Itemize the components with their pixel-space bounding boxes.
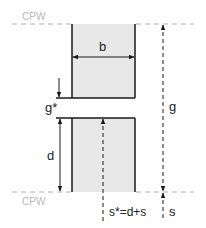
cpw-geometry-diagram: CPW CPW b g* d g s s*=d+s — [0, 0, 206, 228]
top-cpw-label: CPW — [22, 11, 46, 22]
depth-label: d — [47, 148, 54, 163]
width-label: b — [99, 39, 106, 54]
gap-star-label: g* — [45, 100, 57, 115]
gap-label: g — [169, 99, 176, 114]
diagram-canvas: CPW CPW b g* d g s s*=d+s — [0, 0, 206, 228]
spacing-label: s — [169, 204, 176, 219]
spacing-star-label: s*=d+s — [109, 205, 146, 219]
bottom-cpw-label: CPW — [22, 196, 46, 207]
upper-block-fill — [72, 24, 135, 98]
